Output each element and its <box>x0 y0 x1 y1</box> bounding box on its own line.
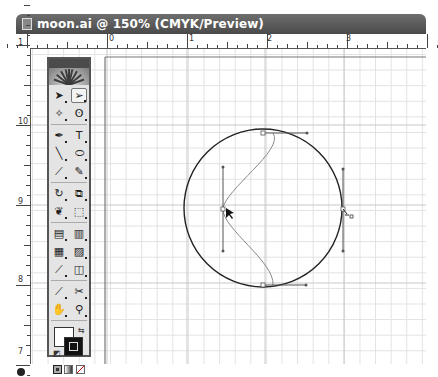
ruler-tick <box>357 45 358 48</box>
ruler-tick <box>397 45 398 48</box>
hand-tool-button[interactable]: ✋ <box>51 302 67 317</box>
direction-handle-point <box>222 166 225 169</box>
ruler-label: 9 <box>18 197 23 206</box>
tool-row: ╲⬭ <box>49 145 89 161</box>
ruler-tick <box>27 35 30 36</box>
gradient-button[interactable] <box>64 365 73 374</box>
selection-tool-icon: ➤ <box>54 89 63 102</box>
gradient-tool-button[interactable]: ▨ <box>71 244 87 259</box>
anchor-point <box>261 131 265 135</box>
ruler-tick <box>27 355 30 356</box>
adobe-flower-logo[interactable] <box>49 68 89 85</box>
ruler-tick <box>37 45 38 48</box>
ruler-label: 10 <box>18 117 28 126</box>
mesh-tool-button[interactable]: ▦ <box>51 244 67 259</box>
ruler-tick <box>16 285 30 286</box>
horizontal-ruler[interactable]: 0123 <box>16 34 426 49</box>
vertical-ruler[interactable]: 110987 <box>16 48 31 364</box>
ruler-tick <box>47 44 48 48</box>
direction-handle-point <box>222 250 225 253</box>
toolbox-panel: ➤➢✧ʘ✒T╲⬭⟋✎↻⧉❦⬚▤▥▦▨⟋◫⟋✂✋⚲ ⇆ ◩ <box>47 57 91 357</box>
blend-tool-icon: ◫ <box>74 263 84 276</box>
ruler-tick <box>27 75 30 76</box>
ruler-tick <box>27 315 30 316</box>
gradient-tool-icon: ▨ <box>74 245 84 258</box>
ruler-tick <box>24 325 30 326</box>
ruler-tick <box>24 245 30 246</box>
ruler-tick <box>307 42 308 48</box>
ruler-tick <box>27 115 30 116</box>
ruler-tick <box>317 45 318 48</box>
direction-handle-point <box>306 132 309 135</box>
pencil-tool-button[interactable]: ✎ <box>71 164 87 179</box>
ruler-tick <box>26 305 30 306</box>
type-tool-button[interactable]: T <box>71 128 87 143</box>
lasso-tool-button[interactable]: ʘ <box>71 106 87 121</box>
caption-bullet-icon <box>17 368 25 376</box>
tool-row: ⟋◫ <box>49 261 89 277</box>
paintbrush-tool-button[interactable]: ⟋ <box>51 164 67 179</box>
ruler-tick <box>87 44 88 48</box>
ruler-tick <box>217 45 218 48</box>
ruler-tick <box>26 345 30 346</box>
tool-row: ✒T <box>49 127 89 143</box>
scissors-tool-icon: ✂ <box>74 285 83 298</box>
ruler-tick <box>27 295 30 296</box>
ruler-tick <box>26 265 30 266</box>
tool-row: ✋⚲ <box>49 301 89 317</box>
ruler-tick <box>327 44 328 48</box>
ruler-tick <box>117 45 118 48</box>
eyedropper-tool-button[interactable]: ⟋ <box>51 262 67 277</box>
ruler-tick <box>157 45 158 48</box>
ruler-tick <box>197 45 198 48</box>
direction-handle-point <box>305 284 308 287</box>
ellipse-tool-button[interactable]: ⬭ <box>71 146 87 161</box>
free-transform-tool-icon: ⬚ <box>74 205 84 218</box>
color-button[interactable] <box>53 365 62 374</box>
toolbox-drag-bar[interactable] <box>49 59 89 68</box>
ruler-tick <box>337 45 338 48</box>
ruler-tick <box>137 45 138 48</box>
pen-tool-icon: ✒ <box>54 129 63 142</box>
free-transform-tool-button[interactable]: ⬚ <box>71 204 87 219</box>
default-colors-icon[interactable]: ◩ <box>53 349 61 358</box>
tool-row: ⟋✂ <box>49 283 89 299</box>
rotate-tool-button[interactable]: ↻ <box>51 186 67 201</box>
ruler-tick <box>27 215 30 216</box>
ellipse-tool-icon: ⬭ <box>75 147 84 160</box>
none-button[interactable] <box>76 365 85 374</box>
tool-row: ✧ʘ <box>49 105 89 121</box>
blend-tool-button[interactable]: ◫ <box>71 262 87 277</box>
window-title: moon.ai @ 150% (CMYK/Preview) <box>37 14 264 34</box>
color-swatches: ⇆ ◩ <box>49 325 89 363</box>
separator <box>51 320 87 321</box>
scale-tool-button[interactable]: ⧉ <box>71 186 87 201</box>
selection-tool-button[interactable]: ➤ <box>51 88 67 103</box>
ruler-label: 8 <box>18 275 23 284</box>
column-graph-tool-button[interactable]: ▥ <box>71 226 87 241</box>
ruler-label: 7 <box>18 347 23 356</box>
symbol-sprayer-tool-button[interactable]: ▤ <box>51 226 67 241</box>
stroke-swatch[interactable] <box>64 337 83 356</box>
ruler-label: 3 <box>346 34 351 43</box>
ruler-tick <box>297 45 298 48</box>
tool-row: ▤▥ <box>49 225 89 241</box>
scissors-tool-button[interactable]: ✂ <box>71 284 87 299</box>
line-segment-tool-button[interactable]: ╲ <box>51 146 67 161</box>
zoom-tool-button[interactable]: ⚲ <box>71 302 87 317</box>
warp-tool-button[interactable]: ❦ <box>51 204 67 219</box>
pen-tool-button[interactable]: ✒ <box>51 128 67 143</box>
tool-row: ➤➢ <box>49 87 89 103</box>
swap-fill-stroke-icon[interactable]: ⇆ <box>78 326 85 335</box>
ruler-tick <box>7 44 8 48</box>
direct-selection-tool-button[interactable]: ➢ <box>71 88 87 103</box>
ruler-label: 1 <box>18 38 23 47</box>
slice-tool-button[interactable]: ⟋ <box>51 284 67 299</box>
ruler-tick <box>26 185 30 186</box>
tool-row: ❦⬚ <box>49 203 89 219</box>
ruler-label: 2 <box>267 34 272 43</box>
ruler-tick <box>227 42 228 48</box>
magic-wand-tool-button[interactable]: ✧ <box>51 106 67 121</box>
title-bar[interactable]: moon.ai @ 150% (CMYK/Preview) <box>16 14 426 34</box>
ruler-tick <box>27 195 30 196</box>
